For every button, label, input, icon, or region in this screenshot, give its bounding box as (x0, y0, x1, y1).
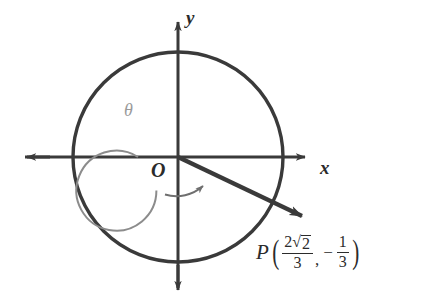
negative-sign: − (323, 244, 333, 261)
coordinate-comma: , (315, 251, 319, 271)
angle-arc (76, 151, 156, 231)
y-coordinate-denominator: 3 (337, 252, 349, 271)
theta-angle-label: θ (124, 101, 133, 119)
y-coordinate-fraction: 1 3 (337, 234, 349, 271)
y-coordinate-numerator: 1 (337, 234, 349, 252)
radicand: 2 (301, 235, 311, 252)
x-numerator-coefficient: 2 (284, 234, 292, 251)
open-paren: ( (272, 238, 279, 265)
x-coordinate-fraction: 2 √ 2 3 (282, 234, 313, 271)
y-axis-label: y (186, 8, 194, 27)
close-paren: ) (352, 238, 359, 265)
radical-sign: √ (292, 234, 301, 250)
figure-canvas: y x O θ P ( 2 √ 2 3 , − 1 3 ) (0, 0, 422, 300)
x-axis-label: x (320, 158, 330, 177)
x-coordinate-denominator: 3 (282, 253, 313, 272)
point-name: P (256, 242, 269, 263)
x-coordinate-numerator: 2 √ 2 (282, 234, 313, 253)
origin-label: O (151, 160, 165, 180)
angle-arc-arrowhead-path (165, 186, 203, 196)
square-root-icon: √ 2 (292, 234, 311, 252)
point-p-label: P ( 2 √ 2 3 , − 1 3 ) (256, 234, 361, 271)
